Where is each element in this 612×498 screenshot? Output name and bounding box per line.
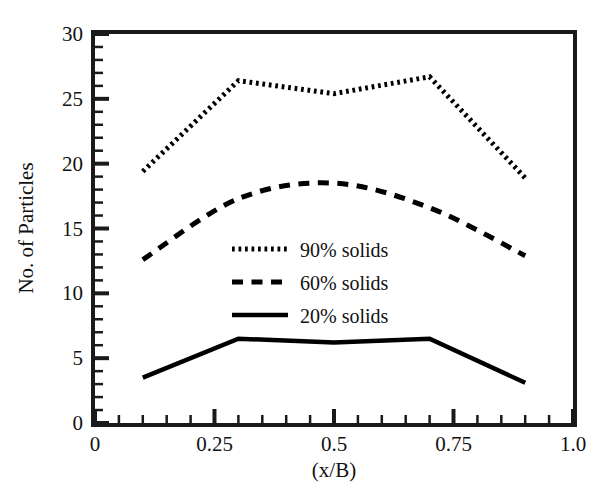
y-tick-label: 10 bbox=[62, 281, 83, 305]
x-axis-title: (x/B) bbox=[312, 458, 356, 482]
legend-label-2: 60% solids bbox=[300, 272, 389, 294]
y-tick-label: 30 bbox=[62, 22, 83, 46]
legend-label-1: 90% solids bbox=[300, 239, 389, 261]
x-axis-tick-labels: 00.250.50.751.0 bbox=[90, 432, 586, 456]
x-tick-label: 0.75 bbox=[435, 432, 472, 456]
y-axis-tick-labels: 051015202530 bbox=[62, 22, 83, 435]
y-tick-label: 25 bbox=[62, 87, 83, 111]
x-tick-label: 0.5 bbox=[321, 432, 347, 456]
x-tick-label: 0 bbox=[90, 432, 101, 456]
y-tick-label: 0 bbox=[73, 411, 84, 435]
chart-figure: 051015202530 00.250.50.751.0 (x/B) No. o… bbox=[0, 0, 612, 498]
y-tick-label: 20 bbox=[62, 152, 83, 176]
y-tick-label: 5 bbox=[73, 346, 84, 370]
x-tick-label: 1.0 bbox=[560, 432, 586, 456]
y-tick-label: 15 bbox=[62, 217, 83, 241]
y-axis-title: No. of Particles bbox=[14, 162, 38, 293]
x-tick-label: 0.25 bbox=[196, 432, 233, 456]
line-chart: 051015202530 00.250.50.751.0 (x/B) No. o… bbox=[0, 0, 612, 498]
legend-label-3: 20% solids bbox=[300, 305, 389, 327]
